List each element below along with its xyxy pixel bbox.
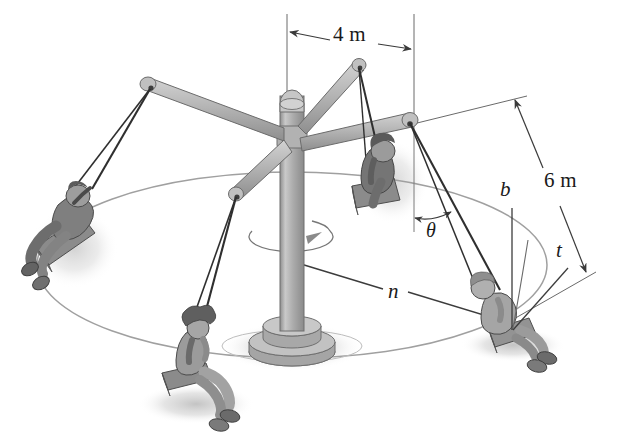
axis-b-label: b	[500, 177, 511, 202]
swing-carousel-figure	[0, 0, 630, 447]
axis-n-label: n	[388, 279, 399, 304]
arm-back-left	[140, 77, 284, 141]
dimension-6m-label: 6 m	[544, 168, 577, 193]
arm-back-right	[298, 59, 366, 135]
axis-t-label: t	[556, 238, 562, 263]
angle-theta-label: θ	[426, 219, 436, 242]
dimension-4m-label: 4 m	[333, 22, 366, 47]
axis-bt-lines	[512, 208, 568, 330]
dimension-6m-group	[413, 96, 596, 320]
